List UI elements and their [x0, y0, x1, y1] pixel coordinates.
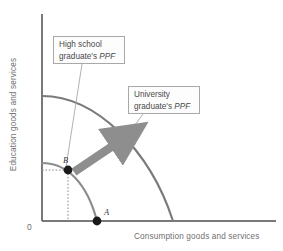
callout-university-line2: graduate's PPF: [134, 101, 195, 113]
leader-line-university: [124, 114, 143, 140]
callout-high-school-ppf-abbrev: PPF: [99, 52, 115, 61]
chart-canvas: [0, 0, 283, 251]
leader-line-high-school: [66, 64, 82, 167]
shift-arrow: [74, 137, 126, 172]
callout-high-school-line1: High school: [59, 39, 120, 51]
origin-label: 0: [27, 222, 32, 232]
point-b-marker: [64, 166, 73, 175]
callout-high-school-line2: graduate's PPF: [59, 51, 120, 63]
point-label-a: A: [104, 207, 109, 217]
callout-university-line1: University: [134, 89, 195, 101]
ppf-figure: Education goods and services Consumption…: [0, 0, 283, 251]
callout-high-school-prefix: graduate's: [59, 52, 99, 61]
point-a-marker: [93, 217, 102, 226]
callout-university-prefix: graduate's: [134, 102, 174, 111]
callout-university-ppf-abbrev: PPF: [174, 102, 190, 111]
university-ppf-curve: [42, 96, 173, 221]
callout-high-school-ppf: High school graduate's PPF: [53, 36, 125, 64]
callout-university-ppf: University graduate's PPF: [128, 86, 200, 114]
y-axis-label: Education goods and services: [9, 45, 18, 185]
x-axis-label: Consumption goods and services: [134, 232, 260, 241]
point-label-b: B: [63, 155, 68, 165]
